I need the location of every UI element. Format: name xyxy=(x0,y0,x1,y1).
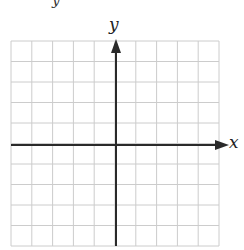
y-axis-label: y xyxy=(109,16,119,33)
x-axis-arrow-icon xyxy=(215,140,229,150)
x-axis-label: x xyxy=(229,134,239,151)
coordinate-plane xyxy=(0,0,244,250)
